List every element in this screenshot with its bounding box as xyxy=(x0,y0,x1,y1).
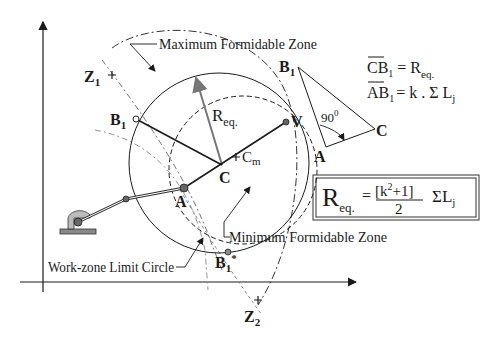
min-zone-label: Minimum Formidable Zone xyxy=(229,230,387,245)
tri-label-b1: B1 xyxy=(279,58,295,78)
axes xyxy=(20,22,356,292)
manipulator-mechanism xyxy=(60,188,184,234)
formula-denominator: 2 xyxy=(395,201,403,217)
cm-cross xyxy=(232,153,240,161)
point-b1 xyxy=(133,116,139,122)
tri-label-c: C xyxy=(376,122,388,139)
work-zone-label: Work-zone Limit Circle xyxy=(48,260,174,275)
tri-angle-label: 900 xyxy=(321,108,339,125)
boxed-formula: Req. = [k2+1] 2 ΣLj xyxy=(313,175,479,220)
eq-line-2: AB1= k . Σ Lj xyxy=(367,84,455,104)
label-cm: Cm xyxy=(242,149,261,167)
label-b1-star: B1* xyxy=(215,252,237,274)
triangle-b1-a-c xyxy=(298,67,375,147)
label-z2: Z2 xyxy=(244,308,261,328)
label-r-eq: Req. xyxy=(212,106,238,129)
workzone-diagram: Maximum Formidable Zone Minimum Formidab… xyxy=(0,0,487,345)
formula-numerator: [k2+1] xyxy=(375,181,413,199)
eq-line-1: CB1= Req. xyxy=(367,59,434,80)
z1-cross xyxy=(108,71,116,79)
formula-equals: = xyxy=(362,187,371,204)
label-v: V xyxy=(291,113,303,130)
c-to-b1-line xyxy=(136,119,222,165)
right-angle-arc xyxy=(320,125,344,140)
max-zone-label: Maximum Formidable Zone xyxy=(159,37,317,52)
label-a: A xyxy=(175,193,187,210)
z2-cross xyxy=(254,296,262,304)
base-plate xyxy=(60,229,96,234)
base-joint xyxy=(74,218,82,226)
tri-label-a: A xyxy=(314,148,326,165)
middle-joint xyxy=(123,196,129,202)
equations: CB1= Req. AB1= k . Σ Lj xyxy=(367,57,455,104)
label-c: C xyxy=(219,169,231,186)
a-to-v-line xyxy=(184,122,286,188)
label-b1: B1 xyxy=(110,111,126,131)
point-v xyxy=(283,119,289,125)
formula-lhs: Req. xyxy=(322,183,355,215)
formula-sum: ΣLj xyxy=(432,187,455,208)
label-z1: Z1 xyxy=(84,68,100,88)
point-a xyxy=(180,184,188,192)
link-1-inner xyxy=(78,199,126,222)
point-b1-star xyxy=(225,249,231,255)
z1-dashdot-line xyxy=(102,60,222,270)
